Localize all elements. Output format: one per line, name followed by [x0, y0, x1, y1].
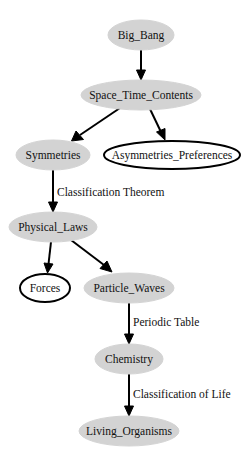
edge-particle-waves-to-chemistry: Periodic Table: [125, 303, 200, 344]
node-forces[interactable]: Forces: [20, 274, 70, 302]
node-label: Asymmetries_Preferences: [112, 149, 233, 162]
arrowhead-icon: [137, 70, 146, 80]
edge-big-bang-to-space-time-contents: [137, 50, 146, 80]
edge-chemistry-to-living-organisms: Classification of Life: [125, 374, 231, 416]
node-label: Symmetries: [26, 149, 81, 162]
edge-label-periodic-table: Periodic Table: [133, 316, 199, 328]
edge-physical-laws-to-particle-waves: [71, 240, 112, 272]
arrowhead-icon: [72, 131, 84, 141]
node-asymmetries-preferences[interactable]: Asymmetries_Preferences: [104, 141, 240, 169]
node-label: Chemistry: [105, 353, 153, 366]
edge-symmetries-to-physical-laws: Classification Theorem: [49, 170, 165, 212]
edge-label-classification-of-life: Classification of Life: [133, 388, 231, 400]
arrowhead-icon: [44, 263, 53, 273]
node-label: Living_Organisms: [86, 425, 173, 438]
arrowhead-icon: [157, 129, 166, 141]
edge-label-classification-theorem: Classification Theorem: [57, 186, 164, 198]
arrowhead-icon: [49, 202, 58, 212]
node-living-organisms[interactable]: Living_Organisms: [79, 416, 179, 446]
node-physical-laws[interactable]: Physical_Laws: [9, 212, 97, 242]
node-label: Physical_Laws: [18, 221, 88, 234]
node-symmetries[interactable]: Symmetries: [16, 140, 90, 170]
node-label: Particle_Waves: [93, 282, 165, 294]
edge-space-time-contents-to-symmetries: [72, 108, 121, 141]
node-chemistry[interactable]: Chemistry: [95, 344, 163, 374]
edge-space-time-contents-to-asymmetries-preferences: [150, 109, 165, 140]
node-label: Space_Time_Contents: [89, 89, 193, 102]
arrowhead-icon: [125, 334, 134, 344]
diagram-canvas: Classification Theorem Periodic Table Cl…: [0, 0, 250, 452]
edge-physical-laws-to-forces: [44, 242, 53, 273]
node-particle-waves[interactable]: Particle_Waves: [84, 273, 174, 303]
arrowhead-icon: [125, 406, 134, 416]
node-big-bang[interactable]: Big_Bang: [108, 20, 174, 50]
node-label: Big_Bang: [118, 29, 165, 42]
node-label: Forces: [30, 282, 61, 294]
node-space-time-contents[interactable]: Space_Time_Contents: [81, 80, 201, 110]
